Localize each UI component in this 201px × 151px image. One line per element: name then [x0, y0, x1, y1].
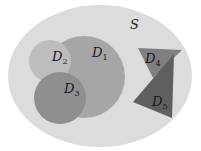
universe-label: S: [130, 17, 139, 32]
venn-diagram: S D1 D2 D3 D4 D5: [0, 0, 201, 151]
region-d3-circle: [34, 72, 86, 124]
